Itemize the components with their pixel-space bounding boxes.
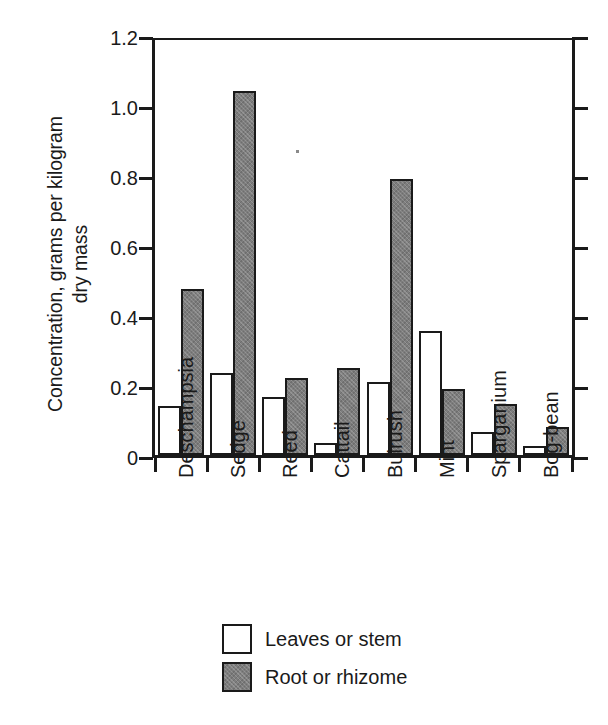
y-tick-mark: [139, 177, 153, 180]
y-tick-mark: [139, 317, 153, 320]
x-tick-mark: [206, 458, 209, 472]
y-tick-mark: [139, 247, 153, 250]
x-category-label: Bog-bean: [540, 328, 562, 478]
y-tick-label: 0: [86, 448, 138, 468]
x-tick-mark: [310, 458, 313, 472]
y-tick-label: 0.2: [86, 378, 138, 398]
x-tick-mark: [414, 458, 417, 472]
y-tick-mark: [139, 107, 153, 110]
legend-item-leaves-or-stem: Leaves or stem: [222, 624, 407, 654]
x-category-label: Bulrush: [384, 328, 406, 478]
legend: Leaves or stem Root or rhizome: [222, 624, 407, 692]
y-tick-label: 0.8: [86, 168, 138, 188]
x-tick-mark: [362, 458, 365, 472]
x-category-label: Sedge: [227, 328, 249, 478]
legend-label: Root or rhizome: [265, 666, 407, 688]
x-category-label: Mint: [436, 328, 458, 478]
x-category-label: Sparganium: [488, 328, 510, 478]
x-category-label: Cattail: [331, 328, 353, 478]
legend-label: Leaves or stem: [265, 628, 402, 650]
x-category-label: Reed: [279, 328, 301, 478]
gray-hatched-square-swatch-icon: [222, 662, 252, 692]
y-tick-label: 1.0: [86, 98, 138, 118]
bar-chart-figure: Concentration, grams per kilogram dry ma…: [0, 0, 608, 725]
x-tick-mark: [466, 458, 469, 472]
x-tick-mark: [154, 458, 157, 472]
x-tick-mark: [518, 458, 521, 472]
x-tick-mark: [571, 458, 574, 472]
y-tick-mark: [139, 37, 153, 40]
x-category-label: Deschampsia: [175, 328, 197, 478]
y-tick-label: 0.6: [86, 238, 138, 258]
y-tick-mark: [139, 387, 153, 390]
scan-artifact-speck: [296, 150, 299, 153]
y-tick-label: 1.2: [86, 28, 138, 48]
legend-item-root-or-rhizome: Root or rhizome: [222, 662, 407, 692]
y-tick-mark: [139, 457, 153, 460]
white-square-swatch-icon: [222, 624, 252, 654]
x-tick-mark: [258, 458, 261, 472]
y-tick-label: 0.4: [86, 308, 138, 328]
